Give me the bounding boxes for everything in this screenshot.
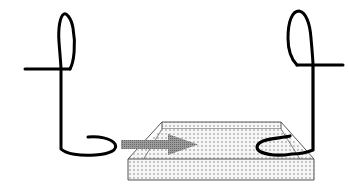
- platform-back-face: [162, 122, 281, 129]
- right-top-loop: [288, 11, 313, 65]
- left-top-loop: [59, 14, 75, 69]
- platform: [128, 122, 314, 180]
- diagram-canvas: [0, 0, 349, 188]
- diagram-svg: [0, 0, 349, 188]
- arrow-shaft: [121, 140, 169, 149]
- left-stem-hook: [61, 69, 116, 155]
- platform-front-face: [128, 159, 314, 180]
- left-figure: [25, 14, 116, 155]
